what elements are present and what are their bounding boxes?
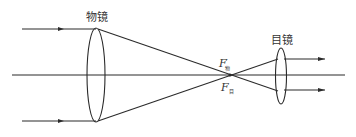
telescope-diagram: 物镜 目镜 F′物 F目 <box>0 0 356 137</box>
arrow-icon <box>58 27 64 31</box>
eyepiece-label: 目镜 <box>271 33 293 47</box>
converging-ray-bottom <box>98 59 278 121</box>
converging-ray-top <box>98 29 278 91</box>
eyepiece-focus-label: F目 <box>220 81 234 95</box>
eyepiece-lens <box>276 48 287 104</box>
arrow-icon <box>318 88 325 92</box>
arrow-icon <box>318 57 325 61</box>
focal-point <box>228 73 231 76</box>
objective-label: 物镜 <box>86 10 108 24</box>
arrow-icon <box>58 119 64 123</box>
objective-focus-label: F′物 <box>218 57 230 72</box>
